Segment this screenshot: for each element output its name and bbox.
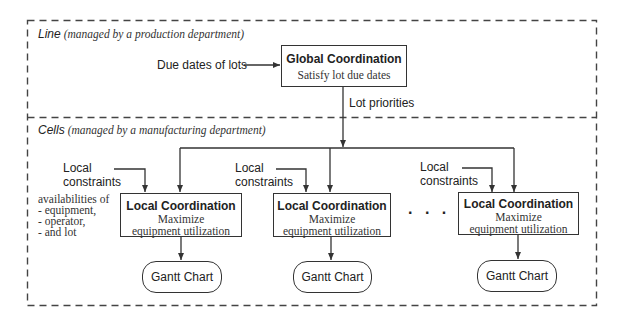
constraint-line1: Local [63,161,121,175]
local-coordination-title: Local Coordination [459,197,578,211]
local-coordination-sub2: equipment utilization [459,223,578,235]
local-constraints-label-1: Local constraints [63,161,121,189]
line-label-note: (managed by a production department) [64,28,244,40]
gantt-chart-1: Gantt Chart [142,261,222,293]
availabilities-list: availabilities of - equipment, - operato… [38,194,109,238]
local-constraints-label-3: Local constraints [420,160,478,188]
local-coordination-box-1: Local Coordination Maximize equipment ut… [120,193,242,237]
local-coordination-sub1: Maximize [274,213,390,225]
cells-section-label: Cells (managed by a manufacturing depart… [38,123,266,138]
local-coordination-box-3: Local Coordination Maximize equipment ut… [458,192,579,235]
due-dates-label: Due dates of lots [157,58,247,72]
global-coordination-box: Global Coordination Satisfy lot due date… [281,45,407,87]
local-coordination-sub2: equipment utilization [121,225,241,237]
local-coordination-title: Local Coordination [274,199,390,213]
constraint-line2: constraints [420,174,478,188]
constraint-line2: constraints [63,175,121,189]
availability-item: - and lot [38,227,109,238]
local-coordination-sub1: Maximize [121,213,241,225]
constraint-line1: Local [235,161,293,175]
more-cells-ellipsis: . . . [408,200,450,218]
cells-label: Cells [38,123,65,137]
gantt-chart-2: Gantt Chart [293,261,372,293]
local-coordination-sub2: equipment utilization [274,225,390,237]
gantt-chart-3: Gantt Chart [477,260,557,292]
constraint-line1: Local [420,160,478,174]
line-section-label: Line (managed by a production department… [38,27,244,42]
lot-priorities-label: Lot priorities [349,96,414,110]
global-coordination-title: Global Coordination [282,52,406,66]
line-label: Line [38,27,61,41]
local-coordination-box-2: Local Coordination Maximize equipment ut… [273,193,391,237]
cells-label-note: (managed by a manufacturing department) [68,124,266,136]
constraint-line2: constraints [235,175,293,189]
local-coordination-sub1: Maximize [459,211,578,223]
global-coordination-subtitle: Satisfy lot due dates [282,69,406,81]
local-constraints-label-2: Local constraints [235,161,293,189]
local-coordination-title: Local Coordination [121,199,241,213]
